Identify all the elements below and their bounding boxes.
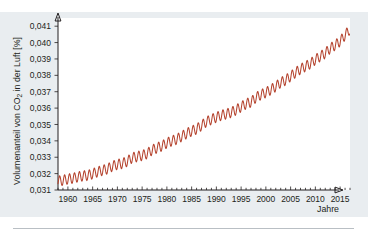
y-axis-title: Volumenanteil von CO2 in der Luft [%] xyxy=(12,37,23,185)
y-axis-tick-label: 0,037 xyxy=(30,87,52,97)
x-axis-tick-marks xyxy=(58,187,350,191)
y-axis-title-tail: in der Luft [%] xyxy=(12,37,22,94)
y-axis-tick-labels: 0,0310,0320,0330,0340,0350,0360,0370,038… xyxy=(30,21,52,195)
y-axis-tick-label: 0,035 xyxy=(30,120,52,130)
x-axis-tick-labels: 1960196519701975198019851990199520002005… xyxy=(58,194,349,204)
y-axis-tick-label: 0,036 xyxy=(30,103,52,113)
svg-text:Volumenanteil von CO2 in der L: Volumenanteil von CO2 in der Luft [%] xyxy=(12,37,23,185)
x-axis-tick-label: 1980 xyxy=(157,194,176,204)
x-axis-tick-label: 1985 xyxy=(182,194,201,204)
x-axis-tick-label: 1995 xyxy=(232,194,251,204)
x-axis-tick-label: 2010 xyxy=(306,194,325,204)
x-axis-title: Jahre xyxy=(317,204,339,214)
x-axis-tick-label: 1960 xyxy=(58,194,77,204)
y-axis-tick-label: 0,032 xyxy=(30,169,52,179)
co2-data-line xyxy=(58,28,350,185)
y-axis-tick-label: 0,034 xyxy=(30,136,52,146)
x-axis-tick-label: 1975 xyxy=(133,194,152,204)
x-axis-tick-label: 1970 xyxy=(108,194,127,204)
x-axis-tick-label: 2000 xyxy=(256,194,275,204)
figure-container: Volumenanteil von CO2 in der Luft [%] 0,… xyxy=(0,0,368,238)
x-axis-tick-label: 2015 xyxy=(331,194,350,204)
y-axis-tick-label: 0,038 xyxy=(30,70,52,80)
x-axis-tick-label: 2005 xyxy=(281,194,300,204)
x-axis-tick-label: 1965 xyxy=(83,194,102,204)
axis-lines xyxy=(55,13,343,193)
y-axis-tick-label: 0,041 xyxy=(30,21,52,31)
x-axis-tick-label: 1990 xyxy=(207,194,226,204)
y-axis-title-main: Volumenanteil von CO xyxy=(12,97,22,185)
y-axis-tick-label: 0,033 xyxy=(30,152,52,162)
co2-keeling-curve-chart: Volumenanteil von CO2 in der Luft [%] 0,… xyxy=(0,0,368,238)
y-axis-tick-label: 0,039 xyxy=(30,54,52,64)
y-axis-tick-label: 0,031 xyxy=(30,185,52,195)
y-axis-tick-marks xyxy=(55,26,59,190)
y-axis-tick-label: 0,040 xyxy=(30,38,52,48)
figure-bottom-rule xyxy=(13,228,354,229)
